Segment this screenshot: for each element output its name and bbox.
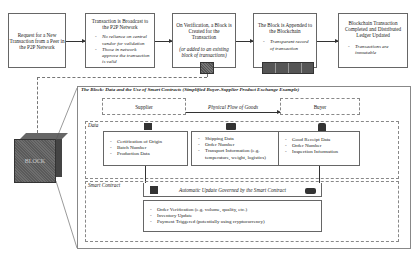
detail-title: The Block: Data and the Use of Smart Con… [81,87,411,93]
buyer-box: Buyer [280,98,360,115]
auto-update-label: Automatic Update Governed by the Smart C… [179,187,286,193]
goods-flow-arrow [186,112,280,113]
buyer-label: Buyer [314,104,327,110]
data-label: Data [88,122,98,128]
data-column-supplier: Certification of Origin Batch Number Pro… [103,131,188,166]
smart-contract-label: Smart Contract [88,182,120,188]
contract-actions-box: Order Verification (e.g. volume, quality… [143,200,322,232]
truck-icon [226,123,236,130]
data-column-transport: Shipping Data Order Number Transport Inf… [191,131,279,166]
warehouse-icon [318,123,326,131]
transport-data-3: Transport Information (e.g. temperature,… [198,148,278,160]
supplier-data-3: Production Data [110,151,187,157]
contract-action-3: Payment Triggered (potentially using cry… [150,219,321,225]
auto-update-bar: Automatic Update Governed by the Smart C… [143,183,322,197]
data-column-buyer: Good Receipt Data Order Number Inspectio… [278,131,360,166]
factory-icon [144,123,152,130]
supplier-contract-icon [150,186,158,194]
supplier-box: Supplier [102,98,186,115]
buyer-contract-icon [305,188,316,194]
supplier-label: Supplier [135,104,153,110]
goods-flow-label: Physical Flow of Goods [186,104,280,110]
buyer-data-3: Inspection Information [285,149,359,155]
